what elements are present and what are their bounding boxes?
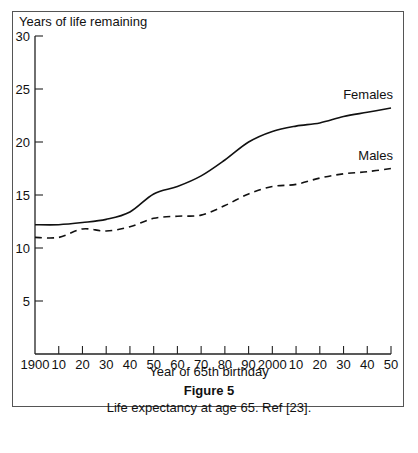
series-label-males: Males — [358, 148, 393, 163]
x-axis-label: Year of 65th birthday — [0, 364, 418, 379]
series-line-males — [35, 169, 391, 239]
y-tick-label: 20 — [16, 135, 30, 150]
y-tick-label: 15 — [16, 188, 30, 203]
y-tick-label: 10 — [16, 241, 30, 256]
figure-title: Figure 5 — [0, 383, 418, 398]
y-tick-label: 5 — [23, 294, 30, 309]
series-label-females: Females — [343, 87, 393, 102]
y-tick-label: 30 — [16, 29, 30, 44]
series-line-females — [35, 108, 391, 225]
figure-caption: Life expectancy at age 65. Ref [23]. — [0, 400, 418, 415]
y-axis-label: Years of life remaining — [19, 14, 147, 29]
y-tick-label: 25 — [16, 82, 30, 97]
